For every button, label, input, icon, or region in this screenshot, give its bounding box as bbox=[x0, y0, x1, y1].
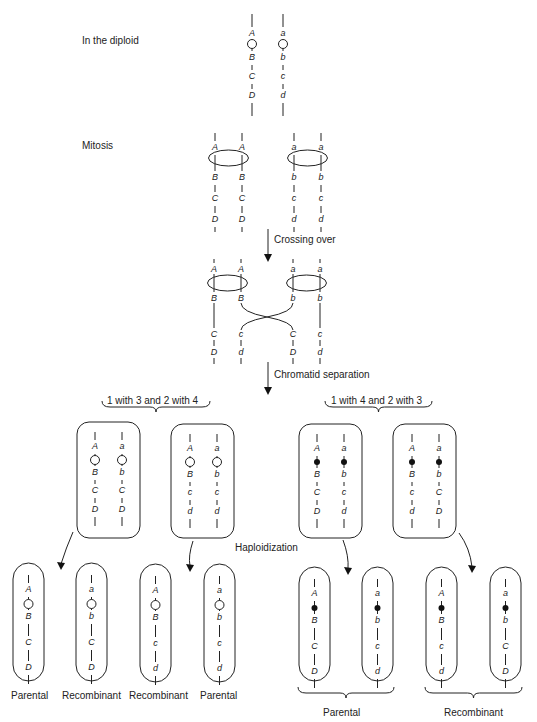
gene-D: D bbox=[92, 504, 99, 514]
gene-d: d bbox=[280, 90, 286, 100]
gene-a: a bbox=[317, 264, 322, 274]
centromere-open-icon bbox=[215, 601, 224, 610]
gene-c: c bbox=[292, 193, 297, 203]
gene-b: b bbox=[280, 52, 285, 62]
gene-a: a bbox=[290, 264, 295, 274]
gene-d: d bbox=[214, 506, 220, 516]
gene-b: b bbox=[119, 467, 124, 477]
gene-C: C bbox=[211, 329, 218, 339]
gene-A: A bbox=[408, 443, 415, 453]
gene-A: A bbox=[210, 264, 217, 274]
gene-c: c bbox=[281, 71, 286, 81]
gene-d: d bbox=[375, 666, 381, 676]
diagram-canvas: ABCDabcdABCDABCDabcdabcdABABababCDcdCDcd… bbox=[0, 0, 537, 722]
brace-parental bbox=[298, 687, 394, 698]
gene-C: C bbox=[311, 641, 318, 651]
centromere-open-icon bbox=[91, 456, 100, 465]
gene-B: B bbox=[249, 52, 255, 62]
gene-a: a bbox=[436, 443, 441, 453]
brace-recombinant bbox=[425, 687, 522, 698]
gene-C: C bbox=[212, 193, 219, 203]
gene-c: c bbox=[439, 641, 444, 651]
gene-b: b bbox=[318, 172, 323, 182]
centromere-filled-icon bbox=[314, 459, 320, 465]
gene-B: B bbox=[239, 172, 245, 182]
centromere-open-icon bbox=[248, 40, 257, 49]
gene-D: D bbox=[25, 662, 32, 672]
gene-a: a bbox=[291, 142, 296, 152]
arrowhead-icon bbox=[186, 564, 194, 572]
curved-arrow-icon bbox=[343, 540, 348, 569]
gene-d: d bbox=[317, 347, 323, 357]
gene-c: c bbox=[217, 638, 222, 648]
gene-b: b bbox=[290, 293, 295, 303]
gene-D: D bbox=[314, 506, 321, 516]
gene-A: A bbox=[211, 142, 218, 152]
gene-A: A bbox=[186, 443, 193, 453]
gene-a: a bbox=[318, 142, 323, 152]
curved-arrow-icon bbox=[459, 533, 472, 567]
gene-b: b bbox=[317, 293, 322, 303]
gene-C: C bbox=[25, 637, 32, 647]
gene-A: A bbox=[237, 264, 244, 274]
gene-c: c bbox=[188, 487, 193, 497]
gene-a: a bbox=[280, 28, 285, 38]
gene-b: b bbox=[503, 615, 508, 625]
gene-B: B bbox=[92, 467, 98, 477]
arrowhead-icon bbox=[264, 387, 272, 395]
gene-a: a bbox=[375, 588, 380, 598]
gene-D: D bbox=[88, 662, 95, 672]
centromere-open-icon bbox=[279, 40, 288, 49]
gene-A: A bbox=[248, 28, 255, 38]
gene-d: d bbox=[291, 214, 297, 224]
gene-a: a bbox=[503, 588, 508, 598]
gene-c: c bbox=[410, 487, 415, 497]
gene-b: b bbox=[89, 611, 94, 621]
segregation-cell bbox=[77, 422, 140, 538]
gene-B: B bbox=[25, 611, 31, 621]
gene-A: A bbox=[437, 588, 444, 598]
gene-C: C bbox=[239, 193, 246, 203]
gene-c: c bbox=[239, 329, 244, 339]
gene-C: C bbox=[314, 487, 321, 497]
brace-left bbox=[102, 401, 210, 412]
centromere-filled-icon bbox=[503, 605, 509, 611]
centromere-filled-icon bbox=[409, 459, 415, 465]
gene-b: b bbox=[436, 469, 441, 479]
centromere-filled-icon bbox=[439, 605, 445, 611]
gene-c: c bbox=[342, 487, 347, 497]
gene-c: c bbox=[319, 193, 324, 203]
gene-a: a bbox=[341, 443, 346, 453]
gene-B: B bbox=[187, 469, 193, 479]
centromere-open-icon bbox=[213, 458, 222, 467]
gene-B: B bbox=[314, 469, 320, 479]
gene-A: A bbox=[310, 588, 317, 598]
gene-d: d bbox=[318, 214, 324, 224]
gene-d: d bbox=[409, 506, 415, 516]
gene-B: B bbox=[238, 293, 244, 303]
gene-b: b bbox=[291, 172, 296, 182]
gene-d: d bbox=[439, 666, 445, 676]
crossover-strand bbox=[241, 303, 293, 330]
gene-b: b bbox=[214, 469, 219, 479]
gene-D: D bbox=[249, 90, 256, 100]
centromere-open-icon bbox=[24, 600, 33, 609]
gene-D: D bbox=[212, 214, 219, 224]
gene-c: c bbox=[375, 641, 380, 651]
gene-D: D bbox=[502, 666, 509, 676]
centromere-filled-icon bbox=[436, 459, 442, 465]
gene-c: c bbox=[318, 329, 323, 339]
gene-B: B bbox=[212, 172, 218, 182]
gene-B: B bbox=[311, 615, 317, 625]
gene-c: c bbox=[215, 487, 220, 497]
centromere-filled-icon bbox=[341, 459, 347, 465]
arrowhead-icon bbox=[264, 254, 272, 262]
segregation-cell bbox=[171, 424, 234, 538]
gene-B: B bbox=[438, 615, 444, 625]
gene-d: d bbox=[217, 663, 223, 673]
gene-D: D bbox=[436, 506, 443, 516]
centromere-open-icon bbox=[87, 600, 96, 609]
arrowhead-icon bbox=[468, 565, 476, 573]
gene-a: a bbox=[119, 441, 124, 451]
gene-C: C bbox=[290, 329, 297, 339]
